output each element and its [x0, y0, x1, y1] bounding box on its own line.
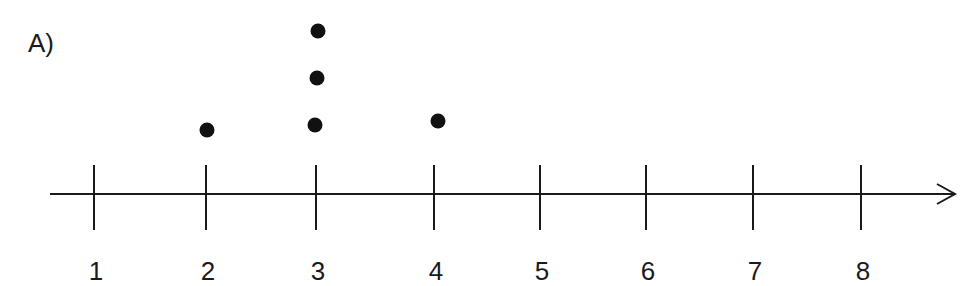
tick-label: 4	[429, 256, 443, 286]
data-dot	[310, 71, 325, 86]
tick-labels: 12345678	[89, 256, 870, 286]
data-dot	[200, 123, 215, 138]
data-dot	[431, 114, 446, 129]
tick-label: 1	[89, 256, 103, 286]
tick-marks	[94, 165, 861, 230]
data-dot	[311, 24, 326, 39]
tick-label: 8	[856, 256, 870, 286]
tick-label: 7	[748, 256, 762, 286]
tick-label: 6	[641, 256, 655, 286]
dot-plot: 12345678	[0, 0, 975, 286]
data-dot	[308, 118, 323, 133]
tick-label: 5	[535, 256, 549, 286]
number-line	[50, 184, 955, 204]
tick-label: 2	[201, 256, 215, 286]
tick-label: 3	[311, 256, 325, 286]
data-dots	[200, 24, 446, 138]
